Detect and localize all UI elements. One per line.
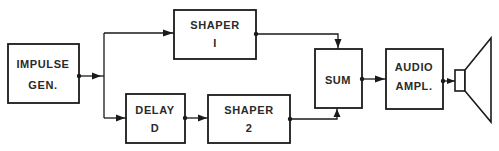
speaker-magnet <box>455 70 465 91</box>
arrow-head-icon <box>447 78 455 84</box>
arrow-head-icon <box>335 39 342 48</box>
connection-impulse-to-split <box>77 73 104 80</box>
impulse-gen-label-line2: GEN. <box>28 79 57 91</box>
block-sum: SUM <box>315 49 362 108</box>
block-audio-ampl: AUDIO AMPL. <box>386 49 443 109</box>
arrow-head-icon <box>92 73 101 80</box>
block-delay: DELAY D <box>126 94 185 143</box>
connection-split-to-delay <box>104 115 126 122</box>
arrow-head-icon <box>163 30 173 37</box>
arrow-head-icon <box>375 76 385 83</box>
delay-label-line2: D <box>151 122 160 134</box>
impulse-gen-label-line1: IMPULSE <box>16 58 69 70</box>
impulse-gen-box <box>8 44 79 103</box>
shaper-1-box <box>174 10 256 59</box>
sum-label: SUM <box>325 74 351 86</box>
audio-ampl-label-line1: AUDIO <box>395 61 433 73</box>
arrow-head-icon <box>198 115 207 122</box>
shaper-2-label-line1: SHAPER <box>224 104 273 116</box>
shaper-1-label-line1: SHAPER <box>190 19 239 31</box>
shaper-2-label-line2: 2 <box>246 122 253 134</box>
delay-box <box>126 94 185 143</box>
connection-delay-to-shaper-2 <box>183 115 208 122</box>
audio-ampl-box <box>386 49 443 109</box>
speaker-cone <box>465 38 491 122</box>
shaper-1-label-line2: I <box>213 37 217 49</box>
delay-label-line1: DELAY <box>135 104 174 116</box>
speaker-icon <box>455 38 491 122</box>
audio-ampl-label-line2: AMPL. <box>395 80 432 92</box>
arrow-head-icon <box>116 115 125 122</box>
block-shaper-1: SHAPER I <box>174 10 256 59</box>
connection-shaper-1-to-sum <box>254 32 342 49</box>
connection-split-to-shaper-1 <box>104 30 174 37</box>
connection-audio-ampl-to-speaker <box>441 78 455 84</box>
block-impulse-gen: IMPULSE GEN. <box>8 44 79 103</box>
shaper-2-box <box>208 95 290 143</box>
connection-sum-to-audio-ampl <box>360 76 386 83</box>
block-diagram: IMPULSE GEN. SHAPER I DELAY D SHAPER 2 S… <box>0 0 499 151</box>
arrow-head-icon <box>334 109 341 117</box>
block-shaper-2: SHAPER 2 <box>208 95 290 143</box>
connection-shaper-2-to-sum <box>288 108 341 121</box>
